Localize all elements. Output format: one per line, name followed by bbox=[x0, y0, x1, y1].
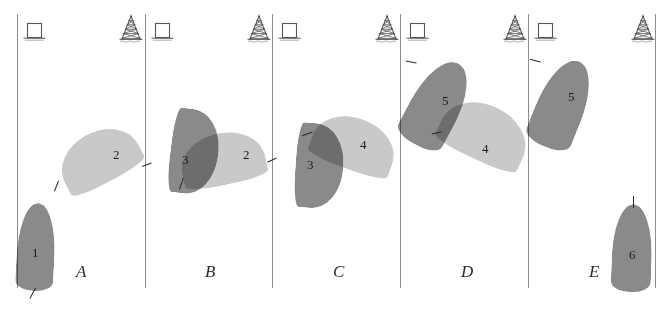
panel-letter-D: D bbox=[461, 262, 474, 282]
vessel-3[interactable] bbox=[165, 107, 223, 197]
vessel-number-label: 3 bbox=[182, 153, 189, 166]
vessel-3[interactable] bbox=[293, 122, 347, 210]
vessel-number-label: 1 bbox=[32, 246, 39, 259]
dock-icon bbox=[150, 19, 176, 45]
panel-letter-C: C bbox=[333, 262, 345, 282]
panel-letter-A: A bbox=[76, 262, 87, 282]
vessel-mast bbox=[406, 61, 417, 64]
dock-icon bbox=[405, 19, 431, 45]
panel-divider-E bbox=[528, 14, 529, 288]
vessel-hull bbox=[165, 107, 223, 197]
panel-divider-end bbox=[655, 14, 656, 288]
vessel-hull bbox=[523, 52, 602, 155]
vessel-number-label: 5 bbox=[442, 94, 449, 107]
derrick-tower-icon bbox=[246, 14, 272, 44]
derrick-tower-icon bbox=[502, 14, 528, 44]
panel-letter-E: E bbox=[589, 262, 600, 282]
panel-divider-B bbox=[145, 14, 146, 288]
vessel-number-label: 2 bbox=[113, 148, 120, 161]
vessel-number-label: 3 bbox=[307, 158, 314, 171]
derrick-tower-icon bbox=[374, 14, 400, 44]
dock-icon bbox=[22, 19, 48, 45]
vessel-number-label: 6 bbox=[629, 248, 636, 261]
dock-icon bbox=[533, 19, 559, 45]
vessel-number-label: 4 bbox=[360, 138, 367, 151]
vessel-mast bbox=[54, 181, 59, 192]
panel-letter-B: B bbox=[205, 262, 216, 282]
vessel-hull bbox=[293, 122, 347, 210]
vessel-hull bbox=[50, 116, 148, 201]
panel-divider-C bbox=[272, 14, 273, 288]
vessel-5[interactable] bbox=[523, 52, 602, 155]
vessel-sequence-figure: 12A23B43C45D56E bbox=[0, 0, 672, 311]
dock-icon bbox=[277, 19, 303, 45]
derrick-tower-icon bbox=[118, 14, 144, 44]
vessel-number-label: 2 bbox=[243, 148, 250, 161]
vessel-2[interactable] bbox=[50, 116, 148, 201]
vessel-mast bbox=[633, 196, 634, 208]
derrick-tower-icon bbox=[630, 14, 656, 44]
vessel-number-label: 5 bbox=[568, 90, 575, 103]
vessel-number-label: 4 bbox=[482, 142, 489, 155]
panel-divider-D bbox=[400, 14, 401, 288]
vessel-mast bbox=[530, 59, 541, 63]
